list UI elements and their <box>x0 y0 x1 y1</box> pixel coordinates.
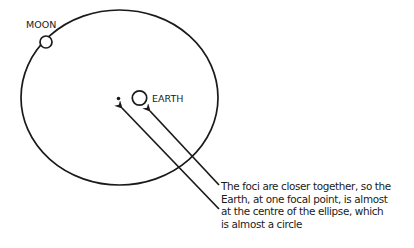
earth-icon <box>132 91 146 105</box>
caption-text: The foci are closer together, so the Ear… <box>221 180 411 230</box>
caption-line: Earth, at one focal point, is almost <box>221 193 411 206</box>
orbit-diagram: MOON EARTH The foci are closer together,… <box>0 0 414 248</box>
caption-line: at the centre of the ellipse, which <box>221 205 411 218</box>
moon-icon <box>40 36 52 48</box>
caption-line: is almost a circle <box>221 218 411 231</box>
arrow-to-focus-icon <box>122 108 219 209</box>
earth-label: EARTH <box>152 93 183 104</box>
caption-line: The foci are closer together, so the <box>221 180 411 193</box>
moon-label: MOON <box>26 19 56 30</box>
empty-focus-dot-icon <box>117 97 121 101</box>
